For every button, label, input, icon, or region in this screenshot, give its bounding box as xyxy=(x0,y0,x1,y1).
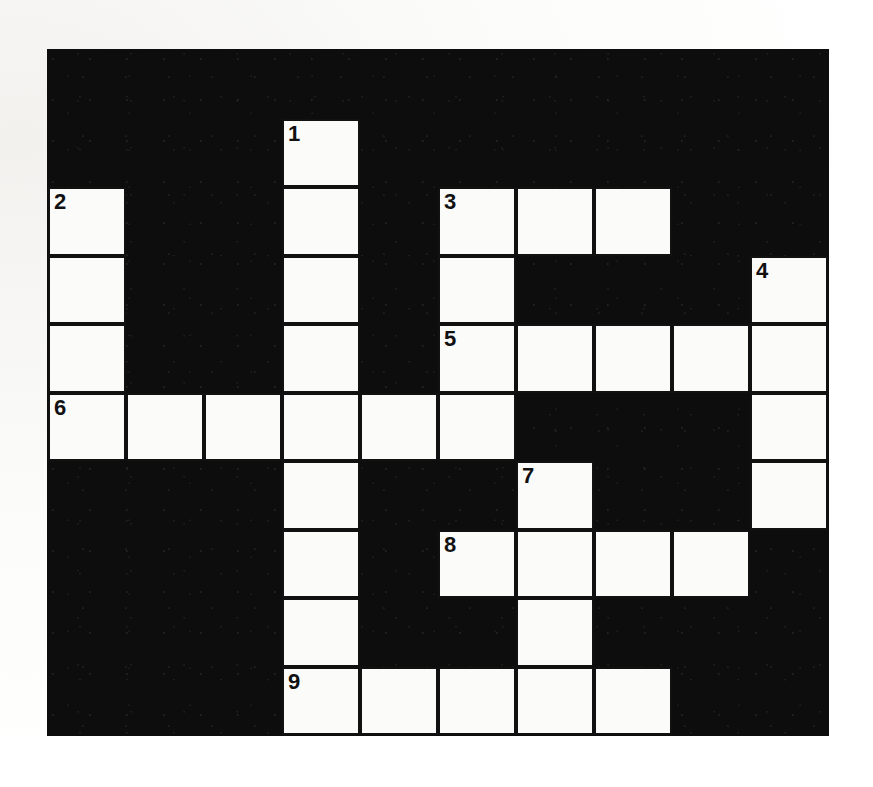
crossword-cell-r2-c6[interactable] xyxy=(516,187,594,256)
crossword-cell-r5-c0[interactable]: 6 xyxy=(48,393,126,462)
crossword-cell-r7-c5[interactable]: 8 xyxy=(438,530,516,599)
crossword-cell-r9-c3[interactable]: 9 xyxy=(282,667,360,736)
crossword-cell-r4-c0[interactable] xyxy=(48,324,126,393)
crossword-cell-r6-c9[interactable] xyxy=(750,461,828,530)
crossword-cell-r3-c5[interactable] xyxy=(438,256,516,325)
crossword-cell-r7-c7[interactable] xyxy=(594,530,672,599)
crossword-cell-r8-c6[interactable] xyxy=(516,598,594,667)
crossword-cell-r4-c9[interactable] xyxy=(750,324,828,393)
crossword-grid-wrapper: 123456789 xyxy=(48,50,828,735)
crossword-cell-r2-c5[interactable]: 3 xyxy=(438,187,516,256)
crossword-cell-r4-c8[interactable] xyxy=(672,324,750,393)
crossword-cell-r2-c3[interactable] xyxy=(282,187,360,256)
crossword-grid[interactable]: 123456789 xyxy=(48,50,828,735)
crossword-cell-r5-c4[interactable] xyxy=(360,393,438,462)
crossword-cell-r4-c5[interactable]: 5 xyxy=(438,324,516,393)
crossword-cell-r3-c9[interactable]: 4 xyxy=(750,256,828,325)
crossword-cell-r7-c6[interactable] xyxy=(516,530,594,599)
crossword-cell-r3-c3[interactable] xyxy=(282,256,360,325)
crossword-cell-r4-c6[interactable] xyxy=(516,324,594,393)
clue-number-9: 9 xyxy=(288,669,300,695)
crossword-cell-r2-c0[interactable]: 2 xyxy=(48,187,126,256)
clue-number-5: 5 xyxy=(444,326,456,352)
crossword-cell-r3-c0[interactable] xyxy=(48,256,126,325)
crossword-cell-r8-c3[interactable] xyxy=(282,598,360,667)
clue-number-3: 3 xyxy=(444,189,456,215)
crossword-cell-r5-c5[interactable] xyxy=(438,393,516,462)
crossword-cell-r5-c1[interactable] xyxy=(126,393,204,462)
clue-number-7: 7 xyxy=(522,463,534,489)
crossword-cell-r7-c3[interactable] xyxy=(282,530,360,599)
crossword-cell-r9-c4[interactable] xyxy=(360,667,438,736)
clue-number-8: 8 xyxy=(444,532,456,558)
crossword-cell-r9-c5[interactable] xyxy=(438,667,516,736)
crossword-cell-r6-c6[interactable]: 7 xyxy=(516,461,594,530)
clue-number-6: 6 xyxy=(54,395,66,421)
crossword-cell-r9-c6[interactable] xyxy=(516,667,594,736)
crossword-cell-r9-c7[interactable] xyxy=(594,667,672,736)
clue-number-4: 4 xyxy=(756,258,768,284)
crossword-cell-r4-c7[interactable] xyxy=(594,324,672,393)
crossword-cell-r5-c3[interactable] xyxy=(282,393,360,462)
crossword-cell-r5-c9[interactable] xyxy=(750,393,828,462)
crossword-cell-r1-c3[interactable]: 1 xyxy=(282,119,360,188)
crossword-cell-r2-c7[interactable] xyxy=(594,187,672,256)
clue-number-1: 1 xyxy=(288,121,300,147)
crossword-cell-r6-c3[interactable] xyxy=(282,461,360,530)
crossword-cell-r4-c3[interactable] xyxy=(282,324,360,393)
clue-number-2: 2 xyxy=(54,189,66,215)
crossword-cell-r5-c2[interactable] xyxy=(204,393,282,462)
crossword-cell-r7-c8[interactable] xyxy=(672,530,750,599)
